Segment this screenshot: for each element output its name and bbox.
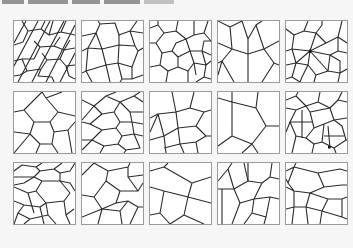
tile-r2-c2 xyxy=(81,91,144,154)
voronoi-pattern-icon xyxy=(218,92,279,153)
voronoi-pattern-icon xyxy=(150,92,211,153)
voronoi-pattern-icon xyxy=(82,21,143,82)
voronoi-pattern-icon xyxy=(14,21,75,82)
tile-r3-c2 xyxy=(81,162,144,225)
voronoi-pattern-icon xyxy=(150,21,211,82)
tile-r3-c3 xyxy=(149,162,212,225)
voronoi-pattern-icon xyxy=(218,21,279,82)
tile-r1-c1 xyxy=(13,20,76,83)
voronoi-pattern-icon xyxy=(286,92,347,153)
voronoi-pattern-icon xyxy=(82,92,143,153)
tile-r1-c2 xyxy=(81,20,144,83)
tile-r1-c4 xyxy=(217,20,280,83)
voronoi-pattern-icon xyxy=(14,163,75,224)
tile-r2-c1 xyxy=(13,91,76,154)
tile-r2-c5 xyxy=(285,91,348,154)
voronoi-pattern-icon xyxy=(150,163,211,224)
tile-r2-c3 xyxy=(149,91,212,154)
tile-r3-c1 xyxy=(13,162,76,225)
tile-r1-c5 xyxy=(285,20,348,83)
tile-r2-c4 xyxy=(217,91,280,154)
voronoi-pattern-icon xyxy=(218,163,279,224)
tile-r3-c4 xyxy=(217,162,280,225)
voronoi-pattern-icon xyxy=(286,163,347,224)
cropped-header-text xyxy=(0,0,190,6)
tile-r3-c5 xyxy=(285,162,348,225)
voronoi-pattern-icon xyxy=(82,163,143,224)
voronoi-pattern-icon xyxy=(286,21,347,82)
tile-r1-c3 xyxy=(149,20,212,83)
voronoi-pattern-icon xyxy=(14,92,75,153)
tessellation-grid xyxy=(13,20,348,225)
